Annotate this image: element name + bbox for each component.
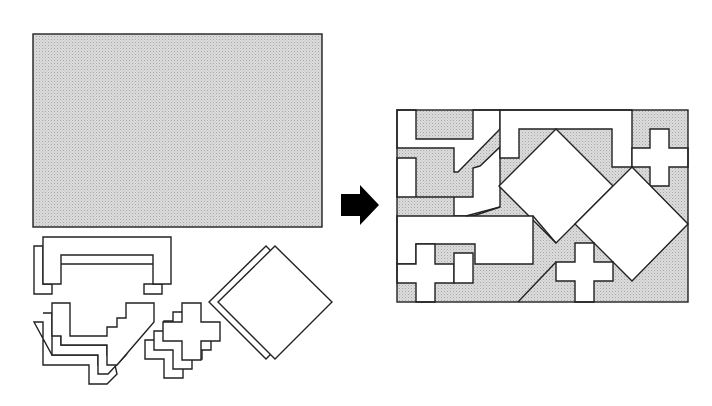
diamond-pieces [209, 246, 332, 359]
right-arrow-icon [341, 185, 379, 225]
placed-inner-piece [454, 253, 473, 283]
diamond-piece-front [218, 246, 332, 359]
cross-pieces [145, 303, 220, 378]
c-piece-front [43, 237, 171, 284]
stepped-pieces [34, 303, 154, 384]
puzzle-diagram [0, 0, 712, 406]
c-pieces [34, 237, 171, 294]
assembled-board [397, 110, 688, 302]
empty-board [33, 34, 322, 227]
